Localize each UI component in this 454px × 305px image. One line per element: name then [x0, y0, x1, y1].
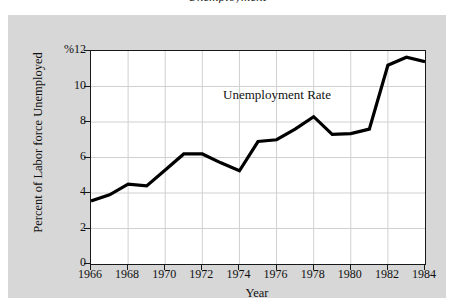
x-tick-mark-1984 — [424, 264, 425, 270]
y-tick-mark-2 — [84, 228, 90, 229]
y-tick-label-12: %12 — [46, 42, 86, 57]
y-tick-mark-12 — [84, 50, 90, 51]
y-tick-mark-6 — [84, 157, 90, 158]
x-axis-title: Year — [90, 286, 424, 301]
y-tick-label-4: 4 — [46, 184, 86, 199]
y-tick-label-2: 2 — [46, 220, 86, 235]
y-tick-mark-4 — [84, 192, 90, 193]
y-axis-tick-labels: 0246810%12 — [38, 50, 86, 263]
y-tick-label-8: 8 — [46, 113, 86, 128]
y-tick-mark-10 — [84, 86, 90, 87]
y-tick-mark-8 — [84, 121, 90, 122]
x-tick-mark-1980 — [350, 264, 351, 270]
clipped-caption-text: Unemployment — [0, 0, 454, 3]
chart-panel: Percent of Labor force Unemployed 024681… — [8, 15, 446, 298]
x-tick-mark-1974 — [238, 264, 239, 270]
x-tick-mark-1970 — [164, 264, 165, 270]
y-tick-label-6: 6 — [46, 149, 86, 164]
series-annotation-label: Unemployment Rate — [223, 87, 331, 103]
y-tick-label-10: 10 — [46, 78, 86, 93]
plot-area — [90, 50, 426, 265]
x-tick-mark-1976 — [276, 264, 277, 270]
x-axis-tick-labels: 1966196819701972197419761978198019821984 — [90, 267, 424, 285]
x-tick-mark-1966 — [90, 264, 91, 270]
x-tick-mark-1968 — [127, 264, 128, 270]
x-tick-mark-1982 — [387, 264, 388, 270]
x-tick-mark-1972 — [201, 264, 202, 270]
unemployment-rate-line — [91, 51, 425, 264]
x-tick-mark-1978 — [313, 264, 314, 270]
unemployment-rate-figure: Unemployment Percent of Labor force Unem… — [0, 0, 454, 305]
